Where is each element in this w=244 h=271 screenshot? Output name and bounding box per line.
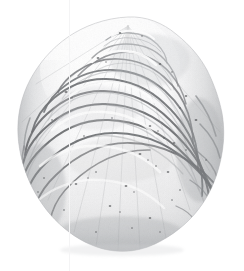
specimen-photo-canvas: Oyster shell (bivalve) left valve, exter…	[0, 0, 244, 271]
contact-shadow	[60, 244, 184, 256]
oyster-shell-photograph	[0, 0, 244, 271]
